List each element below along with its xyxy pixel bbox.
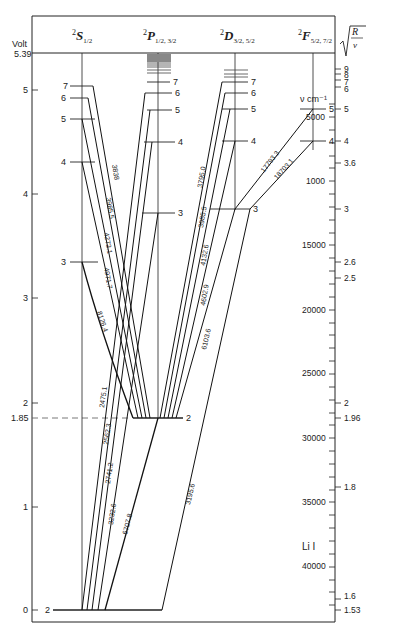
volt-axis: Volt 5.39 5 4 3 2 1.85 1 0 (11, 39, 38, 615)
header-2P: 2P1/2, 3/2 (143, 28, 177, 45)
effective-quantum-number-axis: R ν 9 8 7 6 5 4 3.6 3 2.6 2 (335, 26, 366, 615)
level-S6: 6 (61, 93, 66, 103)
wl-3985.5-s: 3985.5 (105, 197, 116, 219)
wavenumber-label: ν cm⁻¹ (300, 94, 327, 104)
ionization-label: 5.39 (14, 49, 32, 59)
wn-30000: 30000 (302, 433, 326, 443)
volt-tick-5: 5 (23, 85, 28, 95)
level-P5: 5 (175, 105, 180, 115)
wl-3232.6: 3232.6 (107, 503, 117, 525)
rq-2.6: 2.6 (344, 257, 356, 267)
wl-3838: 3838 (111, 164, 121, 181)
p-series-limit-lines (147, 54, 171, 73)
volt-tick-4: 4 (23, 189, 28, 199)
wl-6707.8: 6707.8 (121, 513, 133, 536)
column-lines (82, 53, 313, 610)
wn-25000: 25000 (302, 368, 326, 378)
rq-3.6: 3.6 (344, 158, 356, 168)
wn-15000: 15000 (302, 240, 326, 250)
svg-text:ν: ν (353, 40, 357, 50)
rq-1.8: 1.8 (344, 482, 356, 492)
wn-40000: 40000 (302, 561, 326, 571)
level-S2: 2 (45, 605, 50, 615)
rq-1.96: 1.96 (344, 413, 361, 423)
level-S4: 4 (61, 157, 66, 167)
level-D7: 7 (251, 77, 256, 87)
level-F5: 5 (329, 104, 334, 114)
header-2D: 2D3/2, 5/2 (220, 28, 255, 45)
level-S7: 7 (63, 81, 68, 91)
volt-tick-2: 2 (23, 398, 28, 408)
grotrian-diagram: 2S1/2 2P1/2, 3/2 2D3/2, 5/2 2F5/2, 7/2 V… (0, 0, 406, 641)
svg-text:R: R (351, 26, 358, 37)
level-D6: 6 (251, 88, 256, 98)
wavenumber-axis: ν cm⁻¹ (300, 94, 335, 605)
header-2F: 2F5/2, 7/2 (298, 28, 333, 45)
level-S5: 5 (61, 114, 66, 124)
rq-1.53: 1.53 (344, 605, 361, 615)
level-S3: 3 (61, 257, 66, 267)
wl-2475.1: 2475.1 (98, 386, 108, 408)
wl-18703.1: 18703.1 (273, 157, 295, 181)
transition-lines (82, 82, 313, 610)
level-D4: 4 (251, 136, 256, 146)
levels-F: 4 5 (300, 104, 334, 146)
level-P4: 4 (178, 137, 183, 147)
level-P2: 2 (186, 413, 191, 423)
volt-tick-3: 3 (23, 293, 28, 303)
frame (32, 16, 335, 622)
wn-1000: 1000 (306, 176, 325, 186)
wn-20000: 20000 (302, 305, 326, 315)
volt-tick-0: 0 (23, 605, 28, 615)
sqrt-r-over-nu-label: R ν (340, 26, 366, 56)
wn-5000: 5000 (306, 112, 325, 122)
rq-2.5: 2.5 (344, 273, 356, 283)
volt-tick-1: 1 (23, 502, 28, 512)
level-P7: 7 (173, 77, 178, 87)
level-P3: 3 (178, 208, 183, 218)
d-series-limit-lines (224, 70, 248, 77)
header-2S: 2S1/2 (72, 28, 93, 45)
volt-label: Volt (12, 39, 28, 49)
level-F4: 4 (329, 136, 334, 146)
wl-3195.6: 3195.6 (184, 483, 196, 506)
rq-1.6: 1.6 (344, 591, 356, 601)
diagram-title: Li I (302, 541, 315, 552)
column-headers: 2S1/2 2P1/2, 3/2 2D3/2, 5/2 2F5/2, 7/2 (72, 28, 333, 45)
volt-tick-1.85: 1.85 (11, 413, 29, 423)
wl-3795.0: 3795.0 (196, 166, 207, 188)
wl-2562.3: 2562.3 (102, 423, 112, 445)
wn-35000: 35000 (302, 497, 326, 507)
wl-8126.4: 8126.4 (96, 310, 109, 333)
level-D5: 5 (251, 104, 256, 114)
rq-6: 6 (344, 84, 349, 94)
level-P6: 6 (175, 88, 180, 98)
rq-3: 3 (344, 204, 349, 214)
rq-2: 2 (344, 398, 349, 408)
wl-6103.6: 6103.6 (200, 328, 212, 351)
rq-5: 5 (344, 104, 349, 114)
rq-4: 4 (344, 136, 349, 146)
wl-4132.6: 4132.6 (199, 244, 210, 266)
wl-4273.1: 4273.1 (103, 232, 114, 254)
levels-S: 2 3 4 5 6 7 (45, 81, 162, 615)
